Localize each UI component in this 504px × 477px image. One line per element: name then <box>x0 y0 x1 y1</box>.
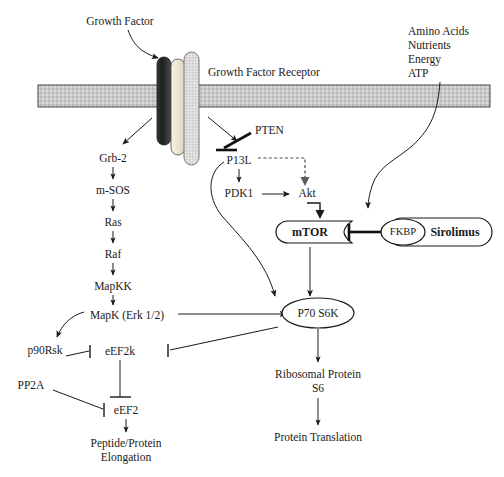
msos-label: m-SOS <box>96 184 130 196</box>
receptor-subunit-dark <box>157 57 171 145</box>
receptor-subunit-cream <box>171 59 185 155</box>
eef2k-inhibits-eef2 <box>110 360 131 397</box>
growth-factor-receptor <box>157 52 199 165</box>
p90rsk-inhibits-eef2k <box>66 345 90 358</box>
pten-inhibits-p13l <box>216 133 251 150</box>
eef2-label: eEF2 <box>114 404 139 416</box>
atp-label: ATP <box>408 67 428 79</box>
mtor-label: mTOR <box>292 225 328 239</box>
s6-label: S6 <box>312 382 324 394</box>
pathway-diagram-page: Growth Factor Growth Factor Receptor Ami… <box>0 0 504 477</box>
p70s6k-label: P70 S6K <box>297 307 339 319</box>
pp2a-label: PP2A <box>18 379 46 391</box>
plasma-membrane <box>38 85 490 107</box>
amino-acids-label: Amino Acids <box>408 25 470 37</box>
mapk-to-p90rsk-arrow <box>57 312 84 337</box>
mtor-node: mTOR <box>276 221 352 243</box>
signaling-pathway-svg: Growth Factor Growth Factor Receptor Ami… <box>0 0 504 477</box>
p90rsk-label: p90Rsk <box>27 344 62 357</box>
sirolimus-complex: FKBP Sirolimus <box>381 218 492 246</box>
growth-factor-receptor-label: Growth Factor Receptor <box>208 66 320 79</box>
p70s6k-inhibits-eef2k <box>168 327 278 357</box>
growth-factor-arrow <box>128 30 158 58</box>
elongation-label: Elongation <box>101 451 152 464</box>
p13l-label: P13L <box>227 154 252 166</box>
ribosomal-protein-label: Ribosomal Protein <box>275 368 361 380</box>
mapk-label: MapK (Erk 1/2) <box>90 309 164 322</box>
receptor-to-p13l-arrow <box>208 117 237 141</box>
sirolimus-inhibits-mtor <box>349 224 381 241</box>
sirolimus-label: Sirolimus <box>430 225 479 239</box>
eef2k-label: eEF2k <box>105 345 135 357</box>
pp2a-inhibits-eef2 <box>53 390 104 417</box>
p70s6k-node: P70 S6K <box>282 298 354 328</box>
akt-label: Akt <box>298 187 316 199</box>
akt-to-mtor-arrow <box>307 203 325 219</box>
p13l-to-p70s6k-curve-arrow <box>211 162 275 296</box>
receptor-to-grb2-arrow <box>123 118 152 144</box>
pten-label: PTEN <box>255 124 284 136</box>
fkbp-label: FKBP <box>390 226 416 237</box>
pdk1-label: PDK1 <box>225 187 254 199</box>
protein-translation-label: Protein Translation <box>274 431 362 443</box>
nutrients-label: Nutrients <box>408 39 451 51</box>
energy-label: Energy <box>408 53 441 66</box>
p13l-to-akt-dashed-arrow <box>258 158 310 186</box>
grb2-label: Grb-2 <box>99 152 127 164</box>
ras-label: Ras <box>104 216 122 228</box>
peptide-protein-label: Peptide/Protein <box>91 437 162 450</box>
raf-label: Raf <box>105 248 122 260</box>
mapkk-label: MapKK <box>94 280 132 293</box>
receptor-subunit-grey <box>184 52 199 165</box>
growth-factor-label: Growth Factor <box>86 15 154 27</box>
